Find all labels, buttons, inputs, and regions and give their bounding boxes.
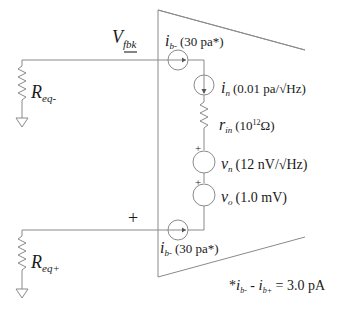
req-plus-label: Req+: [30, 252, 60, 274]
rin-label: rin(1012Ω): [219, 116, 275, 135]
req-plus-resistor: [18, 230, 26, 289]
req-minus-resistor: [18, 60, 26, 118]
ib-minus-label: ib-(30 pa*): [165, 32, 224, 51]
vn-label: vn(12 nV/√Hz): [221, 155, 308, 174]
req-minus-label: Req-: [30, 82, 56, 104]
vn-noise-source: [193, 151, 215, 173]
vn-plus-sign: +: [195, 142, 201, 154]
vo-label: vo(1.0 mV): [221, 188, 287, 207]
ib-plus-label: ib-(30 pa*): [160, 239, 219, 258]
in-label: in(0.01 pa/√Hz): [221, 79, 306, 98]
vo-plus-sign: +: [195, 176, 201, 188]
vfbk-label: Vfbk: [112, 27, 138, 50]
ground-icon: [16, 118, 28, 127]
ground-icon: [16, 289, 28, 298]
noninverting-polarity-plus: +: [128, 208, 138, 228]
bias-current-footnote: *ib- - ib+ = 3.0 pA: [229, 277, 326, 295]
op-amp-noise-model-diagram: Vfbk Req- + Req+ ib-(30 pa*) in(0.01 pa/…: [0, 0, 340, 311]
